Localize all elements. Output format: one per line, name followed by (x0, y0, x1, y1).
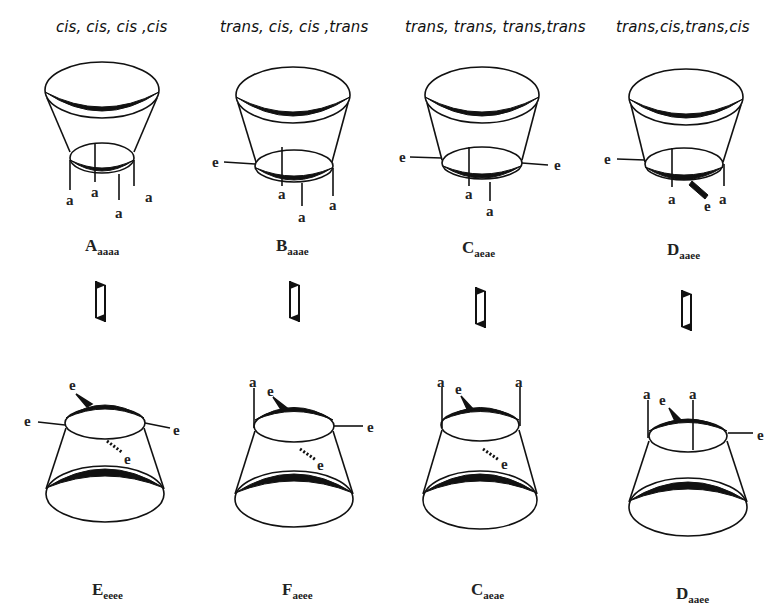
label-subscript: eeee (103, 589, 123, 601)
svg-text:e: e (267, 383, 274, 399)
svg-text:a: a (66, 192, 74, 208)
equilibrium-arrows (96, 281, 691, 331)
label-main: C (471, 580, 483, 599)
svg-text:a: a (91, 184, 99, 200)
svg-text:e: e (317, 457, 324, 473)
svg-text:a: a (486, 203, 494, 219)
svg-text:a: a (668, 191, 676, 207)
equilibrium-arrow-D-D (682, 290, 691, 331)
svg-text:a: a (329, 197, 337, 213)
compound-label-E: Eeeee (92, 580, 123, 601)
substituent-labels-C: e e a a (399, 149, 561, 219)
svg-text:e: e (554, 157, 561, 173)
cone-B-aaae (224, 67, 350, 206)
label-subscript: aeae (474, 247, 495, 259)
label-subscript: aaee (688, 593, 709, 605)
svg-text:a: a (465, 186, 473, 202)
svg-text:e: e (757, 427, 764, 443)
svg-text:a: a (719, 191, 727, 207)
svg-text:e: e (124, 451, 131, 467)
substituent-labels-F: a e e e (249, 374, 374, 473)
substituent-labels-B: e a a a (212, 154, 337, 225)
label-subscript: aeae (483, 589, 504, 601)
svg-text:a: a (689, 386, 697, 402)
label-subscript: aeee (292, 589, 312, 601)
label-main: E (92, 580, 103, 599)
svg-text:e: e (367, 419, 374, 435)
svg-text:e: e (212, 154, 219, 170)
svg-text:a: a (515, 374, 523, 390)
svg-text:a: a (145, 189, 153, 205)
label-main: C (462, 238, 474, 257)
svg-text:e: e (455, 381, 462, 397)
label-main: A (85, 236, 97, 255)
svg-text:e: e (659, 392, 666, 408)
label-main: F (282, 580, 292, 599)
substituent-labels-A: a a a a (66, 184, 153, 221)
svg-text:a: a (643, 386, 651, 402)
svg-text:e: e (69, 377, 76, 393)
svg-text:a: a (298, 209, 306, 225)
svg-text:e: e (604, 151, 611, 167)
substituent-labels-E: e e e e (24, 377, 180, 467)
cone-E-eeee (38, 394, 170, 522)
svg-text:e: e (704, 198, 711, 214)
compound-label-F: Faeee (282, 580, 313, 601)
compound-label-C: Caeae (462, 238, 495, 259)
compound-label-D: Daaee (667, 240, 700, 261)
label-main: D (676, 584, 688, 603)
label-main: D (667, 240, 679, 259)
compound-label-C-flipped: Caeae (471, 580, 504, 601)
cone-C-aeae (410, 67, 548, 201)
svg-text:e: e (501, 456, 508, 472)
equilibrium-arrow-A-E (96, 281, 105, 322)
svg-text:e: e (399, 149, 406, 165)
substituent-labels-D-flipped: a e a e (643, 386, 764, 443)
label-subscript: aaaa (97, 245, 119, 257)
cone-A-aaaa (45, 62, 159, 200)
label-main: B (276, 236, 287, 255)
svg-text:a: a (249, 374, 257, 390)
svg-text:a: a (115, 205, 123, 221)
equilibrium-arrow-C-C (476, 287, 485, 328)
cone-D-aaee (617, 69, 743, 199)
svg-text:a: a (278, 186, 286, 202)
substituent-labels-D: e a e a (604, 151, 727, 214)
label-subscript: aaee (679, 249, 700, 261)
svg-text:a: a (437, 374, 445, 390)
compound-label-A: Aaaaa (85, 236, 119, 257)
substituent-labels-C-flipped: a e a e (437, 374, 523, 472)
equilibrium-arrow-B-F (290, 281, 299, 322)
cone-F-aeee (235, 388, 363, 527)
cone-D-aaee-flipped (629, 400, 753, 536)
label-subscript: aaae (287, 245, 308, 257)
svg-text:e: e (173, 422, 180, 438)
compound-label-B: Baaae (276, 236, 309, 257)
svg-text:e: e (24, 413, 31, 429)
conformation-diagram: a a a a e a a a e e a a (0, 0, 776, 611)
cone-C-aeae-flipped (423, 387, 537, 529)
compound-label-D-flipped: Daaee (676, 584, 709, 605)
